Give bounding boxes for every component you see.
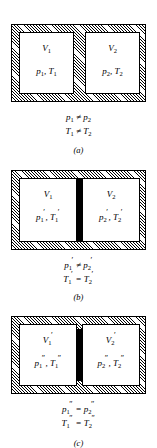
figure-letter-b: (b) [74, 293, 84, 302]
figure-letter-c: (c) [74, 439, 83, 448]
figure-panel-c: V1′ p1″, T1″ V2′ p2″, T2″ p1″ = p2″ [0, 302, 157, 448]
volume-label-right-c: V2′ [106, 333, 117, 345]
state-label-right-b: p2′, T2′ [99, 210, 123, 222]
figure-letter-a: (a) [74, 146, 84, 155]
volume-label-left-c: V1′ [43, 333, 54, 345]
caption-c: p1″ = p2″ T1″ = T2″ [62, 401, 96, 429]
volume-label-right-b: V2 [107, 187, 116, 199]
state-label-left-c: p1″, T1″ [34, 356, 61, 368]
state-label-right-c: p2″, T2″ [97, 356, 124, 368]
caption-temperature-relation-b: T1′ = T2′ [63, 271, 94, 285]
caption-temperature-relation-c: T1″ = T2″ [62, 415, 96, 429]
caption-b: p1′ ≠ p2′ T1′ = T2′ [63, 257, 94, 285]
state-label-left-b: p1′, T1′ [36, 210, 60, 222]
figure-panel-b: V1 p1′, T1′ V2 p2′, T2′ p1′ ≠ p2′ [0, 155, 157, 302]
chamber-right-c: V2′ p2″, T2″ [82, 324, 140, 386]
caption-pressure-relation-c: p1″ = p2″ [62, 401, 96, 415]
container-vessel-a: V1 p1, T1 V2 p2, T2 [11, 24, 146, 102]
chamber-left-c: V1′ p1″, T1″ [19, 324, 77, 386]
caption-pressure-relation-b: p1′ ≠ p2′ [63, 257, 94, 271]
volume-label-left-a: V1 [42, 41, 51, 53]
chamber-right-b: V2 p2′, T2′ [82, 178, 140, 242]
container-vessel-c: V1′ p1″, T1″ V2′ p2″, T2″ [11, 316, 146, 394]
figure-panel-a: V1 p1, T1 V2 p2, T2 p1 ≠ p2 T1 ≠ T2 [0, 0, 157, 155]
chamber-left-a: V1 p1, T1 [19, 32, 74, 94]
chamber-right-a: V2 p2, T2 [85, 32, 140, 94]
volume-label-left-b: V1 [44, 187, 53, 199]
caption-temperature-relation-a: T1 ≠ T2 [66, 123, 92, 137]
caption-a: p1 ≠ p2 T1 ≠ T2 [66, 109, 92, 137]
state-label-left-a: p1, T1 [36, 64, 57, 76]
container-vessel-b: V1 p1′, T1′ V2 p2′, T2′ [11, 170, 146, 250]
volume-label-right-a: V2 [108, 41, 117, 53]
caption-pressure-relation-a: p1 ≠ p2 [66, 109, 92, 123]
chamber-left-b: V1 p1′, T1′ [19, 178, 77, 242]
state-label-right-a: p2, T2 [102, 64, 123, 76]
